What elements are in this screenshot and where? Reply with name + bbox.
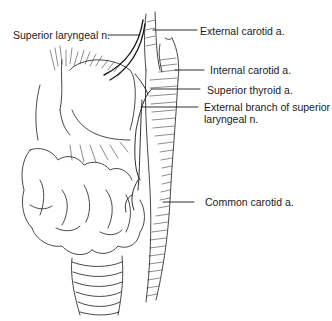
label-external-branch-superior-laryngeal-n: External branch of superior laryngeal n. (204, 101, 332, 125)
label-superior-thyroid-a: Superior thyroid a. (207, 84, 293, 96)
label-internal-carotid-a: Internal carotid a. (210, 64, 291, 76)
label-common-carotid-a: Common carotid a. (205, 196, 294, 208)
superior-laryngeal-nerve (104, 20, 148, 190)
label-external-carotid-a: External carotid a. (200, 25, 285, 37)
anatomy-illustration (0, 0, 332, 321)
superior-thyroid-artery (125, 90, 151, 212)
label-superior-laryngeal-n: Superior laryngeal n. (13, 29, 110, 41)
carotid-arteries (145, 12, 179, 302)
trachea (71, 256, 122, 315)
leader-lines (108, 30, 204, 202)
